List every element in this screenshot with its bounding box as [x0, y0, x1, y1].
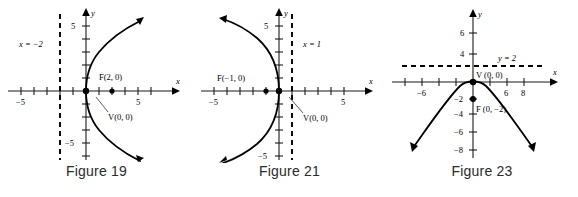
x-axis-label: x [175, 76, 180, 86]
vertex-leader-line [96, 97, 108, 112]
y-axis-arrow [275, 8, 283, 16]
y-tick-label--5: −5 [65, 138, 74, 148]
vertex-point [83, 88, 89, 94]
y-tick-label-5: 5 [71, 21, 75, 31]
vertex-label: V(0, 0) [108, 112, 133, 122]
figures-row: x y −5 5 5 −5 x = −2 F(2, 0) [0, 0, 578, 197]
x-axis-arrow [172, 87, 180, 95]
figure-21: x y −5 5 5 −5 x = 1 F(−1, 0) [193, 0, 386, 197]
x-axis [8, 87, 180, 95]
y-tick-label-5: 5 [264, 21, 268, 31]
focus-label: F(−1, 0) [217, 73, 245, 83]
figure-23: x y −6 6 8 6 4 −2 −4 −6 −8 y = 2 [386, 0, 578, 197]
y-tick-label--8: −8 [454, 145, 463, 155]
x-tick-label-5: 5 [136, 97, 140, 107]
focus-point [109, 88, 114, 93]
x-axis-arrow [550, 78, 558, 86]
figure-21-plot: x y −5 5 5 −5 x = 1 F(−1, 0) [193, 0, 386, 163]
curve-arrow-upper [136, 17, 144, 25]
x-axis-label: x [368, 76, 373, 86]
y-tick-label--5: −5 [258, 151, 267, 161]
directrix-label: y = 2 [497, 53, 517, 63]
focus-label: F(2, 0) [99, 72, 122, 82]
directrix-label: x = −2 [18, 39, 43, 49]
figure-19-svg: x y −5 5 5 −5 x = −2 F(2, 0) [0, 0, 193, 163]
x-tick-label--5: −5 [209, 97, 218, 107]
figure-21-caption: Figure 21 [259, 164, 320, 178]
y-tick-label-4: 4 [460, 49, 465, 59]
focus-point [470, 96, 476, 102]
x-axis [201, 87, 373, 95]
figure-23-plot: x y −6 6 8 6 4 −2 −4 −6 −8 y = 2 [386, 0, 578, 163]
focus-point [263, 88, 268, 93]
figure-23-caption: Figure 23 [452, 164, 513, 178]
curve-arrow-upper [219, 15, 227, 23]
y-axis-arrow [469, 9, 477, 17]
x-tick-label--6: −6 [417, 88, 426, 98]
x-tick-label-8: 8 [521, 88, 525, 98]
y-tick-label-6: 6 [460, 28, 464, 38]
y-tick-label--4: −4 [454, 109, 464, 119]
vertex-label: V(0, 0) [303, 113, 328, 123]
vertex-label: V (0, 0) [476, 70, 503, 80]
x-tick-label-6: 6 [504, 88, 508, 98]
figure-19-caption: Figure 19 [66, 164, 127, 178]
y-tick-label--6: −6 [454, 127, 463, 137]
directrix-label: x = 1 [302, 39, 321, 49]
figure-19: x y −5 5 5 −5 x = −2 F(2, 0) [0, 0, 193, 197]
y-axis-label: y [283, 8, 288, 18]
parabola-curve-lower [86, 91, 140, 161]
focus-label: F (0, −2) [476, 104, 506, 114]
vertex-point [276, 88, 282, 94]
x-axis-label: x [552, 67, 557, 77]
y-axis-label: y [90, 8, 95, 18]
figure-19-plot: x y −5 5 5 −5 x = −2 F(2, 0) [0, 0, 193, 163]
x-axis-arrow [365, 87, 373, 95]
figure-21-svg: x y −5 5 5 −5 x = 1 F(−1, 0) [193, 0, 386, 163]
y-axis-label: y [477, 9, 482, 19]
x-tick-label-5: 5 [341, 97, 345, 107]
y-axis-arrow [82, 8, 90, 16]
parabola-curve-lower [223, 91, 279, 163]
figure-23-svg: x y −6 6 8 6 4 −2 −4 −6 −8 y = 2 [386, 0, 578, 163]
y-tick-label--2: −2 [454, 94, 463, 104]
x-tick-label--5: −5 [16, 97, 25, 107]
